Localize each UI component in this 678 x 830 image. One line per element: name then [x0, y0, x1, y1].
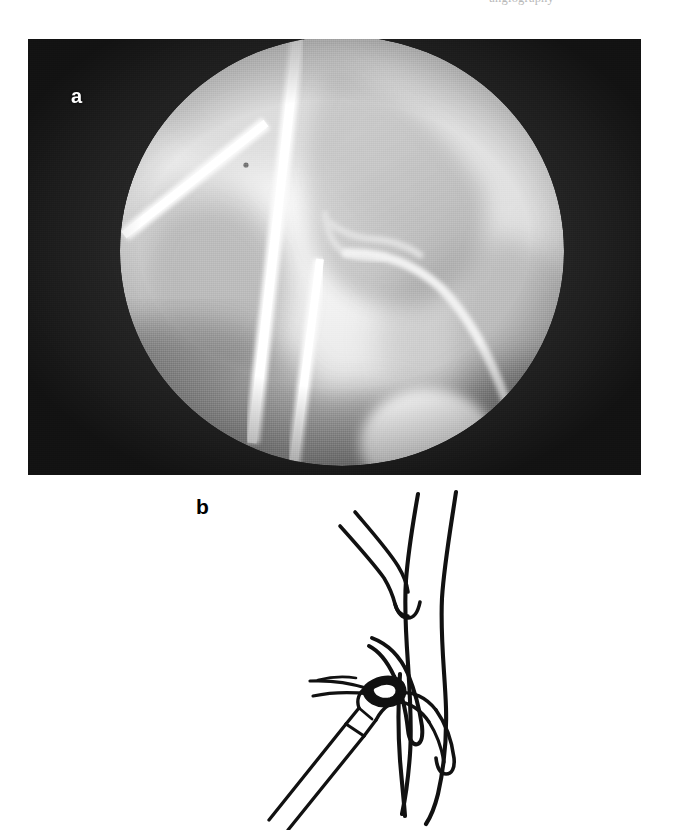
panel-a-fluoroscopy-image: a — [28, 39, 641, 475]
retrieval-instrument — [269, 677, 454, 830]
vessel-instrument-diagram — [150, 488, 570, 830]
figure-page: angiography — [0, 0, 678, 830]
fluoroscopy-graphic — [28, 39, 641, 475]
running-header: angiography — [0, 0, 678, 5]
panel-label-a: a — [71, 86, 82, 106]
panel-b-line-diagram: b — [150, 488, 570, 830]
